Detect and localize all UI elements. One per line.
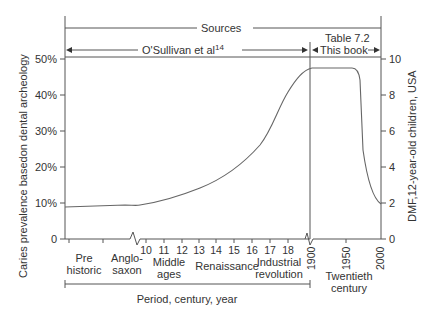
x-tick: 18 [282, 244, 294, 256]
period-renaissance: Renaissance [195, 260, 259, 272]
period-middleages-l1: Middle [153, 256, 185, 268]
period-industrial-l2: revolution [255, 268, 303, 280]
y-tick-right: 10 [389, 53, 401, 65]
series-dmf [312, 68, 381, 204]
y-tick-right: 2 [389, 197, 395, 209]
y-tick-left: 20% [35, 161, 57, 173]
period-prehistoric-l2: historic [67, 264, 102, 276]
x-tick: 13 [193, 244, 205, 256]
caries-chart: 50% 40% 30% 20% 10% 0 10 8 6 4 2 0 Carie… [0, 0, 427, 318]
x-tick-1950: 1950 [340, 246, 352, 270]
y-axis-right-title: DMF,12-year-old children, USA [406, 70, 418, 222]
y-tick-left: 50% [35, 53, 57, 65]
y-tick-left: 0 [51, 233, 57, 245]
y-axis-left-title: Caries prevalence basedon dental archeol… [17, 54, 29, 278]
arrow-right-icon [374, 47, 380, 53]
y-tick-left: 40% [35, 89, 57, 101]
x-tick: 11 [159, 244, 170, 256]
x-tick: 17 [264, 244, 276, 256]
period-prehistoric-l1: Pre [75, 252, 92, 264]
y-tick-right: 4 [389, 161, 395, 173]
sources-header: Sources [201, 22, 242, 34]
period-twentieth-l1: Twentieth [325, 270, 372, 282]
source-osullivan: O'Sullivan et al14 [142, 43, 224, 56]
series-caries-prevalence [65, 68, 312, 207]
period-anglosaxon-l2: saxon [112, 264, 141, 276]
y-tick-right: 6 [389, 125, 395, 137]
source-table: Table 7.2 [325, 32, 370, 44]
period-middleages-l2: ages [157, 268, 181, 280]
x-tick: 15 [228, 244, 240, 256]
source-this-book: This book [320, 44, 368, 56]
period-industrial-l1: Industrial [257, 256, 302, 268]
arrow-left-icon [66, 47, 72, 53]
arrow-right-icon [302, 47, 308, 53]
x-tick: 16 [246, 244, 258, 256]
y-tick-left: 30% [35, 125, 57, 137]
period-anglosaxon-l1: Anglo- [111, 252, 143, 264]
bottom-axis-right [305, 233, 381, 245]
arrow-left-icon [312, 47, 318, 53]
y-tick-right: 0 [389, 233, 395, 245]
x-tick: 12 [176, 244, 188, 256]
period-twentieth-l2: century [331, 282, 368, 294]
x-tick: 14 [210, 244, 222, 256]
x-axis-title: Period, century, year [137, 293, 238, 305]
y-tick-right: 8 [389, 89, 395, 101]
x-tick-2000: 2000 [374, 246, 386, 270]
x-tick-1900: 1900 [305, 246, 317, 270]
y-tick-left: 10% [35, 197, 57, 209]
